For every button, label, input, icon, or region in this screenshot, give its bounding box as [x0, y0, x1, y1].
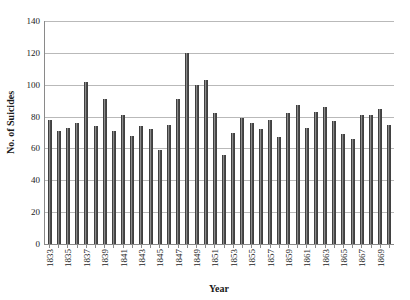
y-axis-tick-labels: 020406080100120140 [20, 15, 42, 247]
x-axis-title: Year [44, 283, 394, 294]
bar [176, 99, 180, 244]
x-tick-mark [67, 244, 68, 248]
x-tick-label: 1839 [98, 249, 110, 281]
x-tick-mark [334, 244, 335, 248]
x-tick-mark [352, 244, 353, 248]
bar [149, 129, 153, 244]
bar [84, 82, 88, 244]
x-tick-mark [224, 244, 225, 248]
x-tick-mark [270, 244, 271, 248]
x-tick-label-text: 1859 [283, 249, 295, 267]
x-tick-label: 1841 [116, 249, 128, 281]
x-tick-label-text: 1867 [356, 249, 368, 267]
bar [222, 155, 226, 244]
bar [360, 115, 364, 244]
bar [66, 128, 70, 244]
bar [387, 125, 391, 244]
bar [277, 137, 281, 244]
x-tick-mark [132, 244, 133, 248]
bar [314, 112, 318, 244]
x-tick-label: 1833 [43, 249, 55, 281]
bar [268, 120, 272, 244]
x-tick-mark [214, 244, 215, 248]
y-tick-label: 20 [31, 208, 40, 217]
y-tick-label: 120 [27, 48, 41, 57]
bar [323, 107, 327, 244]
y-tick-label: 40 [31, 176, 40, 185]
x-tick-label-text: 1847 [173, 249, 185, 267]
bar [75, 123, 79, 244]
bar [231, 133, 235, 245]
x-tick-label: 1869 [373, 249, 385, 281]
x-tick-label-text: 1865 [338, 249, 350, 267]
x-tick-label-text: 1863 [320, 249, 332, 267]
x-tick-label-text: 1861 [301, 249, 313, 267]
x-tick-mark [205, 244, 206, 248]
x-tick-label: 1837 [79, 249, 91, 281]
x-tick-mark [86, 244, 87, 248]
x-tick-mark [371, 244, 372, 248]
x-tick-label: 1863 [318, 249, 330, 281]
x-tick-mark [104, 244, 105, 248]
x-tick-mark [288, 244, 289, 248]
x-tick-mark [159, 244, 160, 248]
bar [57, 131, 61, 244]
x-tick-label-text: 1853 [228, 249, 240, 267]
x-tick-label: 1853 [226, 249, 238, 281]
x-tick-label: 1845 [153, 249, 165, 281]
x-tick-mark [49, 244, 50, 248]
bar [48, 120, 52, 244]
bar [204, 80, 208, 244]
x-tick-mark [150, 244, 151, 248]
x-tick-label-text: 1843 [136, 249, 148, 267]
bar-series [45, 21, 394, 244]
x-tick-mark [389, 244, 390, 248]
bar [296, 105, 300, 244]
bar [286, 113, 290, 244]
x-tick-mark [279, 244, 280, 248]
bar [351, 139, 355, 244]
bar [259, 129, 263, 244]
y-axis-title: No. of Suicides [0, 0, 22, 245]
bar [341, 134, 345, 244]
bar [305, 128, 309, 244]
bar [378, 109, 382, 244]
x-tick-label: 1849 [190, 249, 202, 281]
y-tick-label: 100 [27, 80, 41, 89]
x-tick-label: 1861 [300, 249, 312, 281]
bar [112, 131, 116, 244]
bar [195, 85, 199, 244]
bar [213, 113, 217, 244]
x-tick-mark [233, 244, 234, 248]
x-tick-label: 1857 [263, 249, 275, 281]
x-tick-label-text: 1855 [246, 249, 258, 267]
x-tick-label: 1843 [134, 249, 146, 281]
bar [103, 99, 107, 244]
bar [167, 125, 171, 244]
bar [139, 126, 143, 244]
x-tick-label-text: 1833 [44, 249, 56, 267]
x-tick-mark [251, 244, 252, 248]
x-tick-mark [95, 244, 96, 248]
x-tick-mark [187, 244, 188, 248]
x-tick-mark [361, 244, 362, 248]
x-tick-mark [113, 244, 114, 248]
x-tick-label: 1859 [281, 249, 293, 281]
y-tick-label: 60 [31, 144, 40, 153]
x-tick-mark [178, 244, 179, 248]
y-tick-label: 140 [27, 17, 41, 26]
x-tick-mark [168, 244, 169, 248]
x-tick-label-text: 1841 [118, 249, 130, 267]
x-tick-mark [141, 244, 142, 248]
x-tick-label: 1835 [61, 249, 73, 281]
x-tick-label-text: 1839 [99, 249, 111, 267]
bar [94, 126, 98, 244]
x-tick-label-text: 1869 [375, 249, 387, 267]
x-axis-tick-labels: 1833183518371839184118431845184718491851… [44, 249, 394, 282]
x-tick-label: 1855 [245, 249, 257, 281]
bar [250, 123, 254, 244]
bar [185, 53, 189, 244]
bar [121, 115, 125, 244]
y-tick-label: 0 [36, 240, 41, 249]
x-tick-mark [380, 244, 381, 248]
